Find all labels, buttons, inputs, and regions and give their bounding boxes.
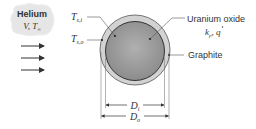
- label-inner-surface-temp: Ts,i: [71, 11, 82, 23]
- fuel-element: [100, 15, 170, 85]
- fluid-name: Helium: [17, 9, 47, 19]
- flow-arrows: [21, 46, 44, 70]
- label-core-props: kp, q: [205, 27, 221, 38]
- uranium-core: [106, 22, 165, 81]
- label-outer-surface-temp: Ts,o: [71, 33, 83, 45]
- fuel-element-diagram: Helium V, T∞ Ts,i Ts,o Uranium oxide kp,…: [0, 0, 256, 129]
- label-core-material: Uranium oxide: [187, 14, 245, 24]
- label-shell-material: Graphite: [188, 50, 223, 60]
- helium-cloud: Helium V, T∞: [11, 4, 54, 36]
- label-outer-diameter: Do: [129, 111, 140, 123]
